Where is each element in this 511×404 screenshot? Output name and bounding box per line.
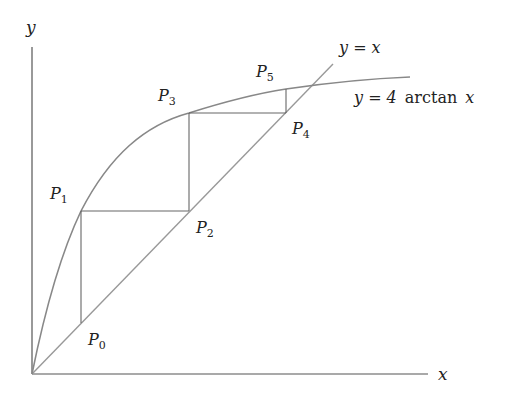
identity-label: y = x bbox=[338, 38, 381, 57]
point-label-p4: P4 bbox=[291, 119, 310, 141]
y-axis-label: y bbox=[25, 17, 36, 37]
point-label-p0: P0 bbox=[87, 330, 106, 352]
cobweb-path bbox=[81, 89, 286, 323]
point-label-p1: P1 bbox=[49, 184, 68, 206]
point-label-p5: P5 bbox=[255, 62, 274, 84]
point-label-p3: P3 bbox=[157, 86, 176, 108]
function-label: y = 4 arctan x bbox=[353, 88, 474, 107]
point-label-p2: P2 bbox=[195, 218, 214, 240]
cobweb-diagram: y x y = x y = 4 arctan x P0 P1 P2 P3 P4 … bbox=[0, 0, 511, 404]
x-axis-label: x bbox=[438, 364, 448, 384]
